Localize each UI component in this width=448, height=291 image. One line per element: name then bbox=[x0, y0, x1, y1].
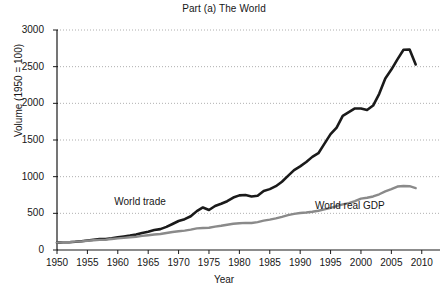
series-label-world-trade: World trade bbox=[114, 196, 166, 207]
plot-area bbox=[0, 0, 448, 291]
gridlines-group bbox=[57, 30, 440, 213]
x-tick-marks-group bbox=[57, 250, 422, 254]
chart-figure: Part (a) The World Volume (1950 = 100) Y… bbox=[0, 0, 448, 291]
y-tick-label: 1000 bbox=[8, 171, 44, 182]
series-label-world-real-gdp: World real GDP bbox=[315, 200, 385, 211]
y-tick-label: 500 bbox=[8, 207, 44, 218]
data-series-group bbox=[57, 49, 416, 242]
y-tick-label: 3000 bbox=[8, 24, 44, 35]
x-tick-label: 2010 bbox=[402, 257, 442, 268]
series-line-world-trade bbox=[57, 49, 416, 242]
y-tick-label: 0 bbox=[8, 244, 44, 255]
series-line-world-real-gdp bbox=[57, 186, 416, 243]
y-tick-label: 1500 bbox=[8, 134, 44, 145]
y-tick-label: 2000 bbox=[8, 97, 44, 108]
y-tick-label: 2500 bbox=[8, 61, 44, 72]
